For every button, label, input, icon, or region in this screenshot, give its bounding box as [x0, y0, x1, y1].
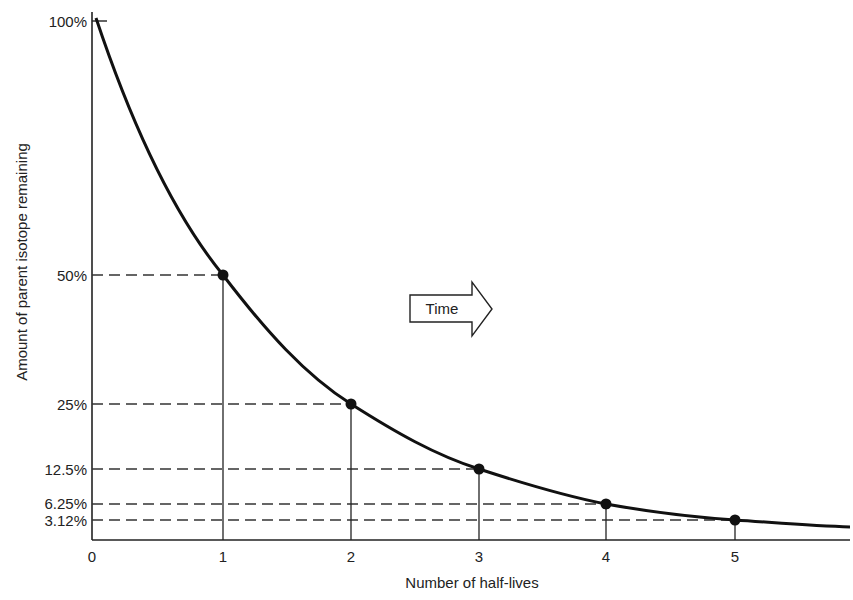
x-tick-label: 2	[347, 548, 355, 565]
decay-chart: 100% 50% 25% 12.5% 6.25% 3.12% 0 1 2 3 4…	[0, 0, 853, 600]
x-tick-label: 3	[475, 548, 483, 565]
point-2	[346, 399, 357, 410]
y-axis-title: Amount of parent isotope remaining	[13, 143, 30, 381]
time-arrow: Time	[410, 282, 492, 336]
x-tick-label: 5	[731, 548, 739, 565]
y-tick-label: 6.25%	[44, 495, 87, 512]
point-1	[218, 270, 229, 281]
x-tick-labels: 0 1 2 3 4 5	[88, 548, 739, 565]
x-tick-label: 4	[602, 548, 610, 565]
y-tick-label: 12.5%	[44, 461, 87, 478]
point-3	[474, 464, 485, 475]
decay-curve	[96, 18, 850, 527]
y-tick-label: 100%	[49, 13, 87, 30]
y-tick-label: 25%	[57, 396, 87, 413]
y-tick-label: 3.12%	[44, 512, 87, 529]
time-label: Time	[426, 300, 459, 317]
axes	[92, 12, 850, 540]
y-tick-labels: 100% 50% 25% 12.5% 6.25% 3.12%	[44, 13, 87, 529]
point-5	[730, 515, 741, 526]
x-tick-label: 1	[219, 548, 227, 565]
point-4	[601, 499, 612, 510]
y-tick-label: 50%	[57, 267, 87, 284]
x-tick-label: 0	[88, 548, 96, 565]
x-axis-title: Number of half-lives	[405, 574, 538, 591]
